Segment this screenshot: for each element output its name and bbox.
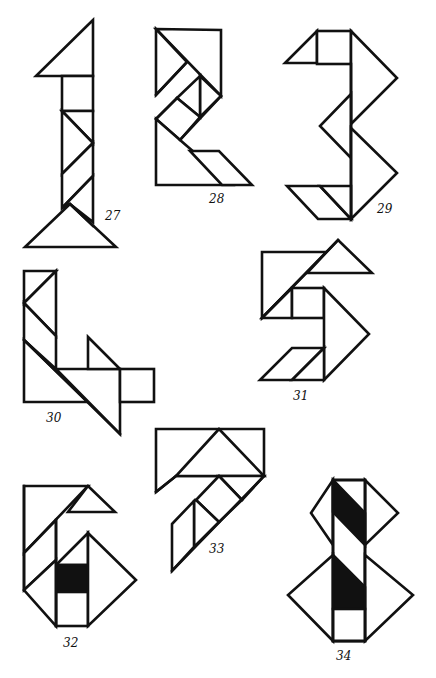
- tangram-diagram: [0, 0, 436, 678]
- tangram-large-triangle: [288, 555, 333, 641]
- tangram-large-triangle-2: [365, 555, 413, 641]
- tangram-triangle-top: [36, 20, 93, 76]
- figure-31: [260, 240, 372, 380]
- tangram-small-triangle: [311, 480, 333, 545]
- tangram-small-triangle: [285, 31, 317, 63]
- figure-32: [24, 486, 136, 626]
- figure-27: [25, 20, 116, 247]
- tangram-small-triangle-2: [56, 533, 88, 565]
- figure-label-29: 29: [377, 203, 392, 215]
- tangram-square: [333, 609, 365, 641]
- figure-label-30: 30: [46, 412, 61, 424]
- figure-label-34: 34: [336, 650, 351, 662]
- figure-label-28: 28: [209, 193, 224, 205]
- figure-label-32: 32: [63, 637, 78, 649]
- figure-29: [285, 31, 397, 219]
- tangram-medium-triangle: [320, 94, 351, 158]
- tangram-small-triangle-2: [365, 480, 398, 545]
- tangram-square: [62, 76, 93, 111]
- figure-30: [24, 271, 154, 434]
- figure-label-27: 27: [105, 210, 120, 222]
- tangram-small-triangle-2: [88, 337, 120, 369]
- tangram-square: [317, 31, 351, 64]
- figure-34: [288, 480, 413, 641]
- tangram-square: [120, 369, 154, 402]
- tangram-large-triangle-2: [88, 533, 136, 626]
- figure-label-33: 33: [209, 543, 224, 555]
- tangram-bottom-rect: [56, 592, 88, 626]
- figure-28: [156, 29, 252, 185]
- tangram-large-triangle: [351, 31, 397, 124]
- figure-label-31: 31: [293, 390, 308, 402]
- tangram-square: [292, 288, 324, 318]
- tangram-large-triangle-base: [25, 204, 116, 247]
- tangram-large-triangle-2: [324, 288, 369, 380]
- tangram-square-black: [56, 565, 88, 592]
